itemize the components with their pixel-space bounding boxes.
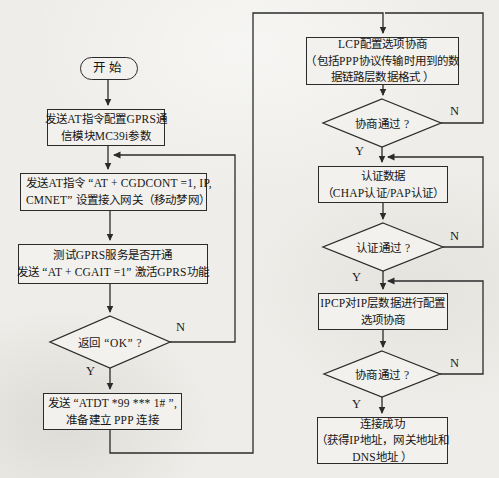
auth-pass-label: 认证通过 ? (356, 239, 411, 255)
node-start: 开始 (80, 57, 138, 80)
config-module-line2: 信模块MC39i参数 (61, 128, 151, 145)
node-lcp-negotiate: LCP配置选项协商 （包括PPP协议传输时用到的数 据链路层数据格式 ） (306, 37, 459, 85)
node-auth-data: 认证数据 （CHAP认证/PAP认证） (318, 166, 448, 203)
edge-label-yes-returnok: Y (86, 364, 95, 379)
node-dial-ppp: 发送 “ATDT *99 *** 1# ”, 准备建立 PPP 连接 (43, 393, 182, 430)
dial-ppp-line2: 准备建立 PPP 连接 (66, 412, 159, 429)
edge-label-no-ipcp: N (450, 356, 459, 371)
set-gateway-line1: 发送AT指令 “AT + CGDCONT =1, IP, (26, 175, 212, 192)
lcp-negotiate-line3: 据链路层数据格式 ） (331, 69, 435, 86)
edge-label-yes-lcp: Y (355, 144, 364, 159)
start-label: 开始 (93, 59, 125, 77)
edge-label-no-returnok: N (176, 320, 185, 335)
edge-label-yes-ipcp: Y (352, 397, 361, 412)
return-ok-label: 返回 “OK” ? (78, 334, 142, 350)
ipcp-pass-label: 协商通过 ? (355, 366, 410, 382)
test-gprs-line2: 发送 “AT + CGAIT =1” 激活GPRS功能 (17, 264, 209, 281)
edge-label-no-lcp: N (450, 104, 459, 119)
ipcp-config-line1: IPCP对IP层数据进行配置 (320, 295, 445, 312)
edge-label-no-auth: N (450, 229, 459, 244)
edge-label-yes-auth: Y (352, 270, 361, 285)
flowchart-page: 开始 发送AT指令配置GPRS通 信模块MC39i参数 发送AT指令 “AT +… (0, 0, 499, 478)
ipcp-config-line2: 选项协商 (361, 312, 406, 329)
auth-data-line1: 认证数据 (361, 168, 406, 185)
connect-success-line3: DNS地址 ） (352, 449, 412, 466)
node-config-module: 发送AT指令配置GPRS通 信模块MC39i参数 (47, 109, 165, 146)
node-set-gateway: 发送AT指令 “AT + CGDCONT =1, IP, CMNET” 设置接入… (20, 173, 207, 211)
connect-success-line2: （获得IP地址，网关地址和 (316, 432, 450, 449)
connect-success-line1: 连接成功 (360, 416, 405, 433)
set-gateway-line2: CMNET” 设置接入网关（移动梦网） (26, 192, 210, 209)
node-connect-success: 连接成功 （获得IP地址，网关地址和 DNS地址 ） (317, 417, 448, 464)
lcp-pass-label: 协商通过 ? (355, 115, 410, 131)
config-module-line1: 发送AT指令配置GPRS通 (45, 111, 167, 128)
test-gprs-line1: 测试GPRS服务是否开通 (53, 247, 172, 264)
dial-ppp-line1: 发送 “ATDT *99 *** 1# ”, (48, 395, 177, 412)
lcp-negotiate-line1: LCP配置选项协商 (338, 36, 427, 53)
lcp-negotiate-line2: （包括PPP协议传输时用到的数 (305, 53, 459, 70)
node-ipcp-config: IPCP对IP层数据进行配置 选项协商 (318, 293, 448, 330)
auth-data-line2: （CHAP认证/PAP认证） (322, 185, 445, 202)
node-test-gprs: 测试GPRS服务是否开通 发送 “AT + CGAIT =1” 激活GPRS功能 (18, 244, 208, 284)
